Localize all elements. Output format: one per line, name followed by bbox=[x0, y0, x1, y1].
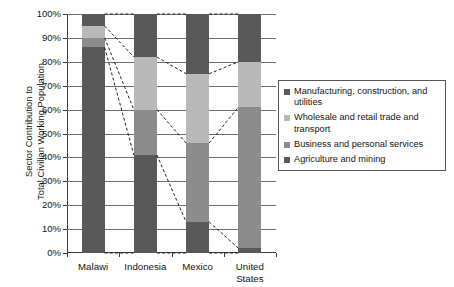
legend-item-manufacturing[interactable]: Manufacturing, construction, and utiliti… bbox=[284, 86, 441, 108]
legend-label-line-1: Business and personal services bbox=[294, 139, 423, 149]
y-axis-tick bbox=[63, 229, 67, 230]
x-axis-label: Indonesia bbox=[119, 261, 171, 273]
stacked-bar[interactable] bbox=[82, 14, 105, 253]
x-axis-tick bbox=[67, 253, 68, 257]
legend: Manufacturing, construction, and utiliti… bbox=[278, 80, 446, 171]
y-axis-tick bbox=[63, 14, 67, 15]
legend-swatch-icon-agriculture bbox=[284, 157, 290, 163]
y-axis-tick bbox=[63, 38, 67, 39]
x-axis-tick bbox=[224, 253, 225, 257]
bar-group bbox=[134, 14, 157, 253]
bar-group bbox=[238, 14, 261, 253]
y-axis-tick-label: 70% bbox=[42, 81, 61, 91]
y-axis-tick bbox=[63, 134, 67, 135]
x-axis-label-line: States bbox=[224, 273, 276, 285]
y-axis-tick-label: 0% bbox=[47, 248, 61, 258]
bar-segment[interactable] bbox=[134, 110, 157, 155]
y-axis-tick bbox=[63, 205, 67, 206]
y-axis-title-line-1: Sector Contribution to bbox=[24, 14, 36, 249]
x-axis-label-line: Indonesia bbox=[119, 261, 171, 273]
y-axis-tick-label: 30% bbox=[42, 176, 61, 186]
legend-label-manufacturing: Manufacturing, construction, and utiliti… bbox=[294, 86, 441, 108]
y-axis-tick-label: 80% bbox=[42, 57, 61, 67]
legend-item-wholesale[interactable]: Wholesale and retail trade and transport bbox=[284, 112, 441, 134]
bar-segment[interactable] bbox=[238, 14, 261, 62]
stacked-bar-chart: Sector Contribution to Total Civilian Wo… bbox=[0, 0, 454, 287]
y-axis-tick-label: 10% bbox=[42, 224, 61, 234]
legend-label-business: Business and personal services bbox=[294, 139, 423, 150]
y-axis-tick-label: 60% bbox=[42, 105, 61, 115]
stacked-bar[interactable] bbox=[186, 14, 209, 253]
y-axis-tick-label: 100% bbox=[37, 9, 61, 19]
y-axis-tick bbox=[63, 62, 67, 63]
legend-label-line-1: Manufacturing, construction, bbox=[294, 86, 409, 96]
bar-group bbox=[82, 14, 105, 253]
legend-label-line-1: Agriculture and mining bbox=[294, 154, 385, 164]
bar-segment[interactable] bbox=[238, 62, 261, 107]
bar-segment[interactable] bbox=[82, 47, 105, 253]
legend-item-business[interactable]: Business and personal services bbox=[284, 139, 441, 150]
x-axis-label: Mexico bbox=[172, 261, 224, 273]
bar-segment[interactable] bbox=[82, 26, 105, 38]
bar-group bbox=[186, 14, 209, 253]
y-axis-tick-label: 50% bbox=[42, 129, 61, 139]
bar-segment[interactable] bbox=[186, 143, 209, 222]
x-axis-tick bbox=[172, 253, 173, 257]
stacked-bar[interactable] bbox=[238, 14, 261, 253]
legend-label-line-2: transport bbox=[294, 124, 330, 134]
bar-segment[interactable] bbox=[186, 74, 209, 143]
legend-label-line-1: Wholesale and retail trade and bbox=[294, 112, 419, 122]
legend-item-agriculture[interactable]: Agriculture and mining bbox=[284, 154, 441, 165]
y-axis-tick-label: 40% bbox=[42, 152, 61, 162]
x-axis-tick bbox=[276, 253, 277, 257]
bar-segment[interactable] bbox=[186, 222, 209, 253]
legend-label-wholesale: Wholesale and retail trade and transport bbox=[294, 112, 441, 134]
bar-segment[interactable] bbox=[82, 14, 105, 26]
x-axis-label: UnitedStates bbox=[224, 261, 276, 284]
x-axis-label: Malawi bbox=[67, 261, 119, 273]
y-axis-tick bbox=[63, 157, 67, 158]
x-axis-label-line: Mexico bbox=[172, 261, 224, 273]
bar-segment[interactable] bbox=[134, 155, 157, 253]
bar-segment[interactable] bbox=[82, 38, 105, 48]
y-axis-tick-label: 20% bbox=[42, 200, 61, 210]
x-axis-label-line: Malawi bbox=[67, 261, 119, 273]
stacked-bar[interactable] bbox=[134, 14, 157, 253]
y-axis-tick-label: 90% bbox=[42, 33, 61, 43]
legend-label-agriculture: Agriculture and mining bbox=[294, 154, 385, 165]
x-axis-tick bbox=[119, 253, 120, 257]
bar-segment[interactable] bbox=[238, 248, 261, 253]
plot-area: 0%10%20%30%40%50%60%70%80%90%100% Malawi… bbox=[67, 14, 276, 253]
legend-swatch-icon-manufacturing bbox=[284, 89, 290, 95]
x-axis-label-line: United bbox=[224, 261, 276, 273]
bar-segment[interactable] bbox=[238, 107, 261, 248]
bar-segment[interactable] bbox=[134, 57, 157, 110]
y-axis-tick bbox=[63, 86, 67, 87]
legend-swatch-icon-wholesale bbox=[284, 115, 290, 121]
y-axis-tick bbox=[63, 110, 67, 111]
bar-segment[interactable] bbox=[134, 14, 157, 57]
legend-swatch-icon-business bbox=[284, 142, 290, 148]
bar-segment[interactable] bbox=[186, 14, 209, 74]
y-axis-tick bbox=[63, 181, 67, 182]
